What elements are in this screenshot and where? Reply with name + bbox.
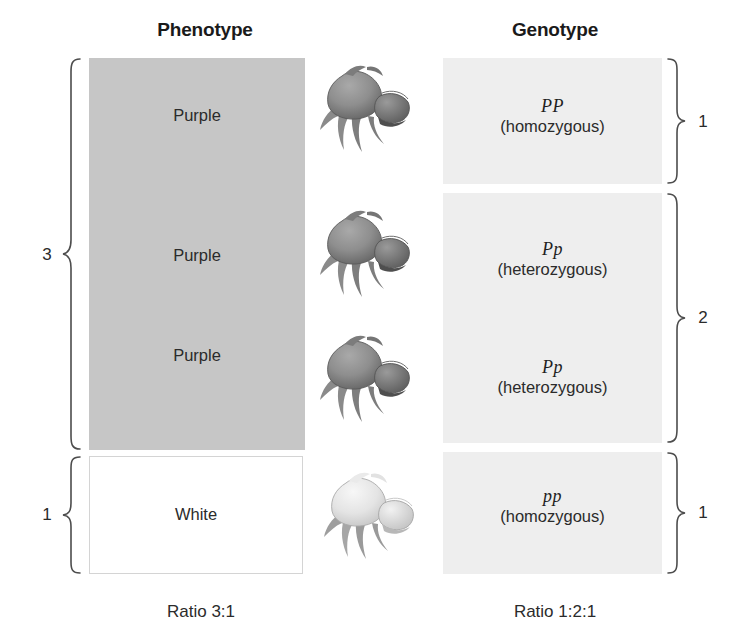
phenotype-ratio-caption: Ratio 3:1 <box>96 602 306 622</box>
genotype-zygosity-4: (homozygous) <box>443 507 662 526</box>
genotype-zygosity-3: (heterozygous) <box>443 378 662 397</box>
phenotype-label-purple-1: Purple <box>89 106 305 125</box>
genotype-allele-3: Pp <box>443 357 662 378</box>
phenotype-brace-count-1: 1 <box>36 505 58 525</box>
genotype-entry-1: PP (homozygous) <box>443 96 662 137</box>
phenotype-label-purple-3: Purple <box>89 346 305 365</box>
genotype-brace-count-1b: 1 <box>692 503 714 523</box>
genotype-entry-4: pp (homozygous) <box>443 486 662 527</box>
phenotype-label-purple-2: Purple <box>89 246 305 265</box>
genotype-brace-count-2: 2 <box>692 308 714 328</box>
genotype-brace-1b <box>666 452 686 574</box>
genotype-entry-3: Pp (heterozygous) <box>443 357 662 398</box>
phenotype-brace-3 <box>62 58 82 450</box>
genotype-block-pp-heterozygous: Pp (heterozygous) Pp (heterozygous) <box>443 193 662 443</box>
phenotype-white-block: White <box>89 456 303 574</box>
genotype-allele-4: pp <box>443 486 662 507</box>
purple-pea-flower-icon-1 <box>318 58 414 168</box>
genotype-allele-1: PP <box>443 96 662 117</box>
genotype-ratio-caption: Ratio 1:2:1 <box>450 602 660 622</box>
genotype-entry-2: Pp (heterozygous) <box>443 239 662 280</box>
purple-pea-flower-icon-2 <box>318 203 414 313</box>
phenotype-brace-1 <box>62 456 82 574</box>
genotype-brace-1a <box>666 58 686 184</box>
genotype-allele-2: Pp <box>443 239 662 260</box>
page-title-phenotype: Phenotype <box>105 19 305 41</box>
genotype-block-recessive-homozygous: pp (homozygous) <box>443 452 662 574</box>
genotype-brace-count-1a: 1 <box>692 112 714 132</box>
page-title-genotype: Genotype <box>455 19 655 41</box>
genotype-zygosity-2: (heterozygous) <box>443 260 662 279</box>
genotype-block-pp-homozygous: PP (homozygous) <box>443 58 662 184</box>
genotype-brace-2 <box>666 193 686 443</box>
phenotype-purple-block: Purple Purple Purple <box>89 58 305 450</box>
phenotype-brace-count-3: 3 <box>36 245 58 265</box>
genotype-zygosity-1: (homozygous) <box>443 117 662 136</box>
purple-pea-flower-icon-3 <box>318 328 414 438</box>
phenotype-label-white: White <box>90 505 302 524</box>
white-pea-flower-icon <box>322 465 418 570</box>
